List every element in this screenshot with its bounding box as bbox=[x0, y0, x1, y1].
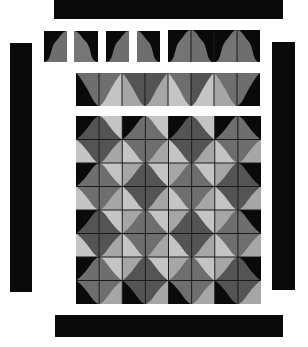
single-quilt-block bbox=[74, 31, 98, 62]
single-quilt-block bbox=[44, 31, 67, 62]
paired-quilt-block bbox=[168, 30, 260, 62]
quilt-block-strip bbox=[76, 73, 260, 106]
single-quilt-block bbox=[106, 31, 129, 62]
single-quilt-block bbox=[137, 31, 160, 62]
top-border-strip bbox=[54, 0, 283, 19]
quilt-main-grid bbox=[76, 116, 261, 304]
bottom-border-strip bbox=[55, 315, 283, 337]
left-border-strip bbox=[10, 43, 32, 292]
right-border-strip bbox=[272, 42, 295, 290]
